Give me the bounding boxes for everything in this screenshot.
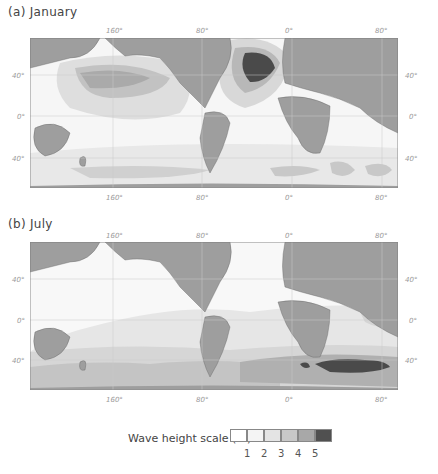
lon-tick: 80° [196, 27, 208, 35]
lat-tick: 40° [405, 155, 417, 163]
lat-tick: 40° [405, 276, 417, 284]
legend-tick: 4 [295, 448, 301, 459]
lon-tick: 160° [106, 232, 123, 240]
lon-tick: 160° [106, 194, 123, 202]
legend-tick: 1 [244, 448, 250, 459]
lat-tick: 40° [405, 357, 417, 365]
lat-tick: 0° [17, 317, 25, 325]
legend-swatch [315, 429, 332, 442]
legend-swatch [281, 429, 298, 442]
january-wave-map [30, 38, 398, 188]
legend-swatch [230, 429, 247, 442]
lon-tick: 80° [196, 194, 208, 202]
lon-tick: 80° [196, 232, 208, 240]
lon-tick: 160° [106, 396, 123, 404]
panel-a-title: (a) January [8, 5, 77, 19]
lon-tick: 80° [375, 27, 387, 35]
legend-tick: 5 [312, 448, 318, 459]
lat-tick: 0° [409, 317, 417, 325]
lat-tick: 40° [12, 357, 24, 365]
legend-tick: 3 [278, 448, 284, 459]
lat-tick: 40° [12, 276, 24, 284]
legend-tick: 2 [261, 448, 267, 459]
legend-swatch [298, 429, 315, 442]
panel-b-title: (b) July [8, 217, 53, 231]
lon-tick: 80° [375, 232, 387, 240]
lat-tick: 40° [12, 72, 24, 80]
lon-tick: 0° [285, 27, 293, 35]
lon-tick: 80° [196, 396, 208, 404]
lon-tick: 80° [375, 396, 387, 404]
lon-tick: 160° [106, 27, 123, 35]
lat-tick: 40° [12, 155, 24, 163]
july-wave-map [30, 242, 398, 390]
lon-tick: 0° [285, 396, 293, 404]
lon-tick: 0° [285, 194, 293, 202]
legend-swatch [247, 429, 264, 442]
legend-swatch [264, 429, 281, 442]
lat-tick: 0° [17, 113, 25, 121]
lat-tick: 40° [405, 72, 417, 80]
lat-tick: 0° [409, 113, 417, 121]
lon-tick: 0° [285, 232, 293, 240]
lon-tick: 80° [375, 194, 387, 202]
